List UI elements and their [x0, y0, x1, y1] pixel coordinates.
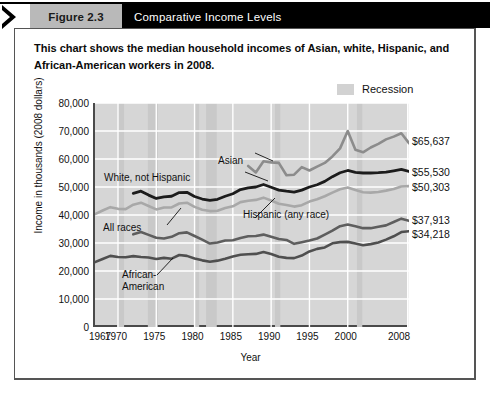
y-axis-ticks: 010,00020,00030,00040,00050,00060,00070,… [33, 103, 89, 327]
figure-header-bar: Figure 2.3 Comparative Income Levels [0, 2, 490, 28]
series-annotation-label: Hispanic (any race) [243, 209, 329, 221]
series-end-value-label: $65,637 [412, 135, 450, 147]
legend-swatch-recession [337, 84, 354, 95]
x-axis-tick-label: 2008 [388, 331, 410, 342]
y-axis-tick-label: 80,000 [37, 98, 89, 109]
x-axis-tick-label: 2000 [335, 331, 357, 342]
x-axis-tick-label: 1980 [181, 331, 203, 342]
series-annotation-label: Asian [218, 155, 243, 167]
series-annotation-label: American [122, 281, 164, 293]
annotation-leader-line [255, 153, 273, 161]
series-end-value-label: $37,913 [412, 214, 450, 226]
x-axis-tick-label: 1995 [296, 331, 318, 342]
x-axis-tick-label: 1985 [220, 331, 242, 342]
y-axis-tick-label: 30,000 [37, 238, 89, 249]
figure-title: Comparative Income Levels [134, 4, 282, 30]
y-axis-tick-label: 60,000 [37, 154, 89, 165]
figure-caption: This chart shows the median household in… [34, 40, 454, 74]
x-axis-tick-label: 1975 [143, 331, 165, 342]
series-annotation-label: All races [103, 222, 141, 234]
series-end-value-label: $50,303 [412, 181, 450, 193]
y-axis-tick-label: 10,000 [37, 294, 89, 305]
series-end-value-label: $55,530 [412, 166, 450, 178]
annotation-leader-line [157, 258, 173, 275]
chevron-right-icon [0, 4, 30, 30]
y-axis-tick-label: 50,000 [37, 182, 89, 193]
legend-label-recession: Recession [362, 83, 413, 95]
x-axis-tick-label: 1970 [105, 331, 127, 342]
figure-container: Figure 2.3 Comparative Income Levels Thi… [0, 0, 490, 393]
series-end-value-label: $34,218 [412, 228, 450, 240]
y-axis-tick-label: 0 [37, 322, 89, 333]
y-axis-tick-label: 70,000 [37, 126, 89, 137]
y-axis-tick-label: 40,000 [37, 210, 89, 221]
chart-legend: Recession [337, 82, 413, 96]
series-line [248, 131, 409, 175]
x-axis-title: Year [93, 352, 408, 363]
series-annotation-label: White, not Hispanic [104, 172, 190, 184]
series-annotation-label: African- [122, 269, 156, 281]
figure-number-tag: Figure 2.3 [30, 4, 122, 30]
x-axis-tick-label: 1990 [258, 331, 280, 342]
annotation-leader-line [167, 208, 181, 225]
y-axis-tick-label: 20,000 [37, 266, 89, 277]
